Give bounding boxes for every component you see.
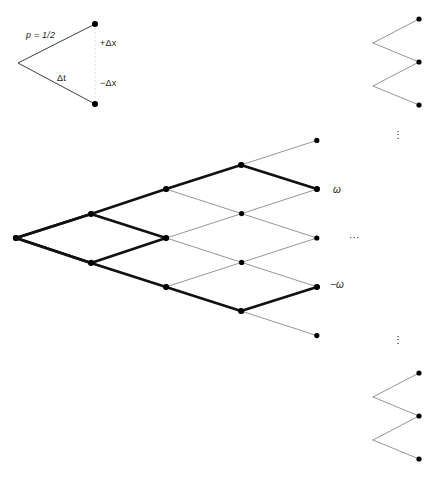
lattice-node (239, 260, 244, 265)
lattice-edge (166, 238, 241, 262)
fragment-edge (373, 62, 419, 86)
lattice-node (314, 235, 319, 240)
time-step-label: Δt (57, 73, 66, 83)
origin-diamond-edge (91, 238, 166, 263)
path-to-negative-omega-segment (166, 287, 241, 311)
lattice-node (314, 187, 319, 192)
fragment-node (416, 456, 421, 461)
lattice-edge (242, 238, 317, 262)
fragment-node (416, 59, 421, 64)
fragment-edge (373, 373, 419, 397)
lattice-node (239, 309, 244, 314)
fragment-edge (373, 86, 419, 105)
legend-down-node (92, 101, 98, 107)
fragment-edge (373, 397, 419, 416)
omega-label: ω (333, 184, 341, 195)
down-step-label: −Δx (100, 78, 116, 88)
origin-diamond-edge (91, 214, 166, 238)
lattice-edge (166, 189, 241, 213)
lattice-node (164, 284, 169, 289)
lattice-svg (0, 0, 439, 479)
path-to-negative-omega-segment (91, 263, 166, 287)
fragment-node (416, 413, 421, 418)
lattice-edge (166, 214, 241, 238)
legend-up-node (92, 21, 98, 27)
lattice-figure: p = 1/2 +Δx Δt −Δx ω −ω ··· ⋮ ⋮ (0, 0, 439, 479)
path-to-negative-omega-segment (241, 287, 317, 311)
horizontal-ellipsis: ··· (349, 232, 360, 243)
lattice-node-dots (89, 138, 320, 338)
lattice-edge (242, 140, 317, 164)
fragment-edge (373, 416, 419, 440)
fragment-node (416, 102, 421, 107)
lattice-node (314, 333, 319, 338)
path-to-omega-segment (91, 189, 166, 214)
lattice-node (164, 235, 169, 240)
probability-label: p = 1/2 (26, 30, 55, 40)
lattice-node (314, 138, 319, 143)
lattice-edge (166, 262, 241, 286)
negative-omega-label: −ω (330, 279, 344, 290)
fragment-edge (373, 19, 419, 43)
origin-diamond-edge (16, 214, 91, 238)
lattice-edge (242, 311, 317, 335)
fragment-edge (373, 43, 419, 62)
lattice-node (89, 211, 94, 216)
lattice-edge (242, 262, 317, 286)
detached-fragment-nodes (416, 16, 421, 461)
vertical-ellipsis-top: ⋮ (393, 129, 403, 140)
origin-diamond-edge (16, 238, 91, 263)
path-to-omega-segment (166, 165, 241, 189)
path-to-omega-segment (241, 165, 317, 189)
lattice-node (164, 187, 169, 192)
fragment-node (416, 370, 421, 375)
lattice-node (89, 260, 94, 265)
lattice-node (239, 211, 244, 216)
lattice-node (239, 162, 244, 167)
legend-down-branch (18, 63, 95, 104)
vertical-ellipsis-bottom: ⋮ (393, 334, 403, 345)
fragment-edge (373, 440, 419, 459)
lattice-edge (242, 214, 317, 238)
fragment-node (416, 16, 421, 21)
lattice-edge (242, 189, 317, 213)
detached-fragment-edges (373, 19, 419, 459)
up-step-label: +Δx (100, 38, 116, 48)
lattice-node (314, 284, 319, 289)
